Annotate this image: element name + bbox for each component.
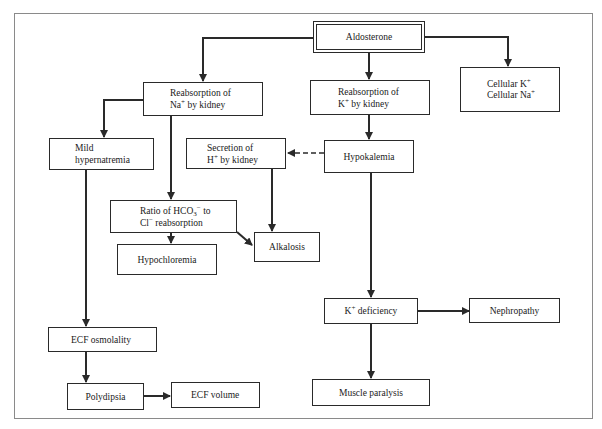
node-label-line2: Na+ by kidney xyxy=(170,100,225,111)
node-label-line2: Cellular Na+ xyxy=(487,90,535,101)
node-mild-hypernatremia: Mild hypernatremia xyxy=(49,138,154,170)
node-hypochloremia: Hypochloremia xyxy=(117,244,217,275)
node-label: ECF osmolality xyxy=(71,335,131,346)
node-label: K+ deficiency xyxy=(325,306,417,317)
edge-na-to-hypernatremia xyxy=(104,100,143,137)
node-label-line1: Reabsorption of xyxy=(170,88,231,99)
node-label-line2: K+ by kidney xyxy=(338,99,389,110)
node-label-line1: Cellular K+ xyxy=(487,79,531,90)
node-label-line2: Cl− reabsorption xyxy=(140,218,203,229)
node-label: Aldosterone xyxy=(314,32,424,43)
node-polydipsia: Polydipsia xyxy=(67,383,144,410)
node-ratio-hco3-cl: Ratio of HCO3− to Cl− reabsorption xyxy=(110,200,237,233)
node-k-deficiency: K+ deficiency xyxy=(324,298,418,324)
node-hypokalemia: Hypokalemia xyxy=(324,140,414,173)
node-nephropathy: Nephropathy xyxy=(469,298,560,323)
edge-aldosterone-to-cellular xyxy=(425,37,508,66)
node-label: Hypokalemia xyxy=(325,151,413,162)
node-reabsorption-na: Reabsorption of Na+ by kidney xyxy=(143,82,263,116)
node-cellular: Cellular K+ Cellular Na+ xyxy=(460,67,560,112)
node-ecf-volume: ECF volume xyxy=(171,382,260,408)
edge-ratio-to-alkalosis xyxy=(237,232,252,245)
node-secretion-h: Secretion of H+ by kidney xyxy=(186,138,286,169)
node-label-line1: Mild xyxy=(75,143,93,154)
node-label: Polydipsia xyxy=(68,391,143,402)
node-label: Nephropathy xyxy=(470,305,559,316)
node-label: Alkalosis xyxy=(255,242,319,253)
node-label-line2: H+ by kidney xyxy=(207,155,258,166)
node-label-line2: hypernatremia xyxy=(75,155,130,166)
node-label: Hypochloremia xyxy=(118,254,216,265)
node-alkalosis: Alkalosis xyxy=(254,232,320,262)
node-label: ECF volume xyxy=(191,390,239,401)
node-muscle-paralysis: Muscle paralysis xyxy=(312,379,430,406)
node-reabsorption-k: Reabsorption of K+ by kidney xyxy=(310,80,430,115)
connector-lines xyxy=(0,0,602,429)
node-aldosterone: Aldosterone xyxy=(313,21,425,53)
node-ecf-osmolality: ECF osmolality xyxy=(48,327,157,352)
node-label: Muscle paralysis xyxy=(313,387,429,398)
